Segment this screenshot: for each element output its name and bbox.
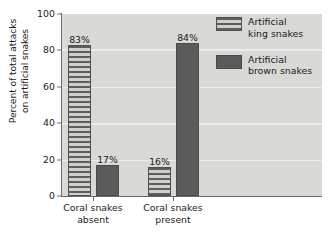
y-tick-label-100: 100 xyxy=(37,9,55,19)
bar-absent-brown-snakes: 17% xyxy=(96,165,119,196)
bar-value-label: 17% xyxy=(97,154,118,165)
bar-chart-figure: Percent of total attacks on artificial s… xyxy=(0,0,331,241)
bar-value-label: 16% xyxy=(149,156,170,167)
x-axis-group-label-present: Coral snakes present xyxy=(143,202,202,226)
bar-present-brown-snakes: 84% xyxy=(176,43,199,196)
legend-label-line-1: Artificial xyxy=(248,54,312,66)
y-axis-tick-labels: 100 80 60 40 20 0 xyxy=(26,0,62,241)
bar-value-label: 84% xyxy=(177,32,198,43)
y-axis-title-line-1: Percent of total attacks xyxy=(7,0,19,147)
y-tick-label-20: 20 xyxy=(43,155,55,165)
bar-value-label: 83% xyxy=(69,34,90,45)
legend-swatch-solid-icon xyxy=(216,55,242,69)
x-tick-mark-present xyxy=(173,196,174,201)
y-tick-label-40: 40 xyxy=(43,118,55,128)
y-tick-label-0: 0 xyxy=(49,191,55,201)
x-group-label-line-2: present xyxy=(143,214,202,226)
legend-swatch-striped-icon xyxy=(216,17,242,31)
x-group-label-line-1: Coral snakes xyxy=(143,202,202,214)
legend-entry-brown-snakes: Artificial brown snakes xyxy=(216,54,328,78)
y-tick-label-80: 80 xyxy=(43,45,55,55)
legend-label-king-snakes: Artificial king snakes xyxy=(248,16,303,40)
chart-legend: Artificial king snakes Artificial brown … xyxy=(216,16,328,91)
legend-label-line-2: king snakes xyxy=(248,28,303,40)
legend-label-line-1: Artificial xyxy=(248,16,303,28)
bar-absent-king-snakes: 83% xyxy=(68,45,91,196)
x-axis-group-label-absent: Coral snakes absent xyxy=(63,202,122,226)
legend-label-line-2: brown snakes xyxy=(248,65,312,77)
y-tick-label-60: 60 xyxy=(43,82,55,92)
bar-present-king-snakes: 16% xyxy=(148,167,171,196)
x-group-label-line-2: absent xyxy=(63,214,122,226)
legend-label-brown-snakes: Artificial brown snakes xyxy=(248,54,312,78)
legend-entry-king-snakes: Artificial king snakes xyxy=(216,16,328,40)
x-tick-mark-absent xyxy=(93,196,94,201)
x-axis-line xyxy=(61,196,322,197)
x-group-label-line-1: Coral snakes xyxy=(63,202,122,214)
